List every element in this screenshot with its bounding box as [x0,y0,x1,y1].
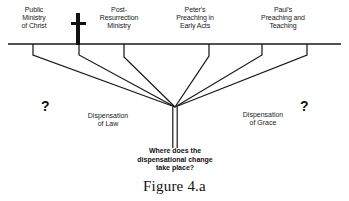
label-pauls-preaching-and-teaching: Paul's Preaching and Teaching [249,6,317,31]
cross-icon-horizontal-bar [71,22,86,25]
left-question-mark: ? [41,99,50,113]
label-dispensation-of-grace: Dispensation of Grace [228,111,298,128]
figure-canvas: Public Ministry of Christ Post- Resurrec… [0,0,349,201]
label-peters-preaching-in-early-acts: Peter's Preaching in Early Acts [164,6,226,31]
figure-caption: Figure 4.a [0,178,349,195]
cross-icon-vertical-bar [76,13,80,45]
central-question-text: Where does the dispensational change tak… [104,147,246,173]
label-public-ministry-of-christ: Public Ministry of Christ [6,6,62,31]
right-question-mark: ? [300,99,309,113]
bracket-2-line [79,44,175,107]
label-dispensation-of-law: Dispensation of Law [73,112,143,129]
label-post-resurrection-ministry: Post- Resurrection Ministry [88,6,150,31]
cross-icon [70,13,86,45]
bracket-1-line [33,44,175,107]
bracket-5-line [175,44,262,107]
bracket-6-line [175,44,307,107]
